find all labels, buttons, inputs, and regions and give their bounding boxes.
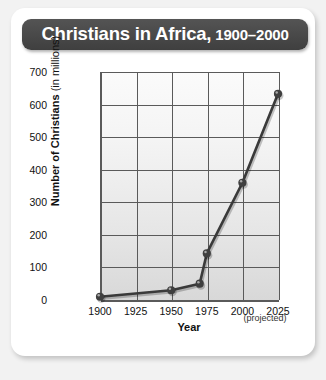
data-point-marker[interactable] (96, 293, 104, 301)
y-tick-label: 600 (7, 99, 47, 111)
y-tick-label: 200 (7, 229, 47, 241)
x-tick-label: 1950 (151, 305, 191, 317)
data-point-marker[interactable] (167, 286, 175, 294)
data-point-highlight (204, 251, 207, 254)
data-point-marker[interactable] (203, 249, 211, 257)
y-tick-label: 700 (7, 66, 47, 78)
title-years-text: 1900–2000 (215, 27, 288, 42)
data-point-marker[interactable] (196, 280, 204, 288)
chart-title-banner: Christians in Africa, 1900–2000 (22, 19, 308, 50)
x-tick-label: 2025 (258, 305, 298, 317)
y-tick-label: 100 (7, 261, 47, 273)
data-point-highlight (197, 281, 200, 284)
x-tick-label: 1925 (116, 305, 156, 317)
series-line-shadow (101, 95, 279, 298)
data-point-highlight (97, 294, 100, 297)
chart-plot-region: Number of Christians (in millions) Year … (11, 55, 315, 355)
x-tick-label: 1975 (187, 305, 227, 317)
title-main-text: Christians in Africa, (41, 25, 211, 44)
data-point-highlight (240, 180, 243, 183)
page-title: Christians in Africa, 1900–2000 (41, 25, 288, 44)
y-tick-label: 300 (7, 196, 47, 208)
series-line (100, 94, 278, 297)
y-tick-label: 400 (7, 164, 47, 176)
x-tick-label: 1900 (80, 305, 120, 317)
data-point-highlight (275, 91, 278, 94)
data-point-highlight (169, 288, 172, 291)
x-tick-label: 2000 (222, 305, 262, 317)
data-point-marker[interactable] (274, 90, 282, 98)
y-tick-label: 500 (7, 131, 47, 143)
data-point-marker[interactable] (238, 179, 246, 187)
y-tick-label: 0 (7, 294, 47, 306)
